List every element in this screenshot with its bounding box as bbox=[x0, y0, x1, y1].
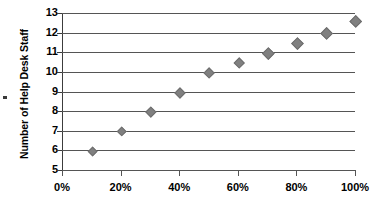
y-tick-label: 6 bbox=[36, 144, 58, 155]
gridline bbox=[62, 111, 355, 112]
y-axis-tick-labels: 1312111098765 bbox=[30, 0, 58, 208]
x-tick-label: 20% bbox=[98, 181, 144, 193]
y-tick-label: 8 bbox=[36, 105, 58, 116]
y-tick-label: 11 bbox=[36, 46, 58, 57]
y-tick-mark bbox=[57, 72, 62, 73]
gridline bbox=[62, 92, 355, 93]
gridline bbox=[62, 52, 355, 53]
y-tick-mark bbox=[57, 13, 62, 14]
x-tick-mark bbox=[62, 171, 63, 176]
x-tick-label: 80% bbox=[273, 181, 319, 193]
y-tick-mark bbox=[57, 150, 62, 151]
y-tick-label: 10 bbox=[36, 66, 58, 77]
gridline bbox=[62, 131, 355, 132]
y-tick-mark bbox=[57, 92, 62, 93]
x-tick-mark bbox=[296, 171, 297, 176]
gridline bbox=[62, 150, 355, 151]
x-tick-label: 0% bbox=[39, 181, 85, 193]
gridline bbox=[62, 13, 355, 14]
y-tick-label: 13 bbox=[36, 7, 58, 18]
x-tick-mark bbox=[355, 171, 356, 176]
x-tick-mark bbox=[121, 171, 122, 176]
y-tick-mark bbox=[57, 52, 62, 53]
y-tick-mark bbox=[57, 131, 62, 132]
stray-tick-mark bbox=[3, 96, 7, 99]
y-tick-label: 12 bbox=[36, 27, 58, 38]
x-tick-mark bbox=[179, 171, 180, 176]
x-tick-mark bbox=[238, 171, 239, 176]
y-tick-label: 9 bbox=[36, 86, 58, 97]
x-tick-label: 40% bbox=[156, 181, 202, 193]
y-tick-mark bbox=[57, 111, 62, 112]
gridline bbox=[62, 33, 355, 34]
x-tick-label: 60% bbox=[215, 181, 261, 193]
gridline bbox=[62, 170, 355, 171]
y-tick-label: 5 bbox=[36, 164, 58, 175]
y-tick-mark bbox=[57, 33, 62, 34]
plot-area bbox=[62, 13, 355, 170]
x-tick-label: 100% bbox=[332, 181, 374, 193]
y-tick-label: 7 bbox=[36, 125, 58, 136]
